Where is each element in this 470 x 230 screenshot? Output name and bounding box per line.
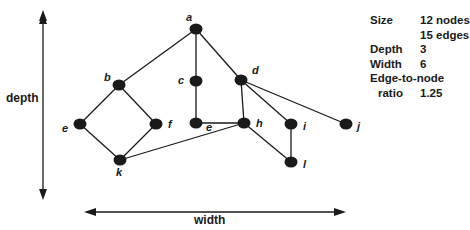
- node-label: l: [303, 158, 307, 170]
- edge-a-d: [196, 29, 241, 80]
- node-c: c: [178, 74, 203, 87]
- node-f: f: [150, 118, 174, 130]
- graph-edges: [80, 29, 346, 162]
- node-label: j: [355, 120, 361, 132]
- node-dot-icon: [285, 157, 298, 168]
- node-dot-icon: [150, 119, 163, 130]
- edge-h-l: [244, 123, 291, 162]
- node-dot-icon: [190, 118, 203, 129]
- depth-axis: depth: [6, 10, 47, 200]
- stat-size-row: Size 12 nodes: [370, 13, 470, 28]
- depth-label: depth: [6, 91, 39, 105]
- stat-size-nodes: 12 nodes: [420, 13, 470, 28]
- node-dot-icon: [114, 155, 127, 166]
- depth-arrow-top-icon: [39, 10, 47, 21]
- edge-a-b: [119, 29, 196, 85]
- node-dot-icon: [113, 80, 126, 91]
- edge-e1-k: [80, 124, 120, 160]
- stat-width-value: 6: [420, 57, 426, 72]
- graph-stats-panel: Size 12 nodes 15 edges Depth 3 Width 6 E…: [370, 13, 470, 100]
- width-axis: width: [84, 208, 346, 227]
- node-h: h: [238, 117, 264, 129]
- stat-ratio-label-row: Edge-to-node: [370, 71, 470, 86]
- edge-d-i: [241, 80, 291, 124]
- node-label: e: [62, 122, 68, 134]
- node-a: a: [186, 11, 203, 35]
- node-label: f: [168, 118, 173, 130]
- edge-d-h: [241, 80, 244, 123]
- node-label: i: [303, 120, 307, 132]
- node-dot-icon: [74, 119, 87, 130]
- stat-size-label: Size: [370, 13, 420, 28]
- stat-edges-row: 15 edges: [370, 28, 470, 43]
- node-l: l: [285, 157, 308, 171]
- edge-b-e1: [80, 85, 119, 124]
- width-label: width: [193, 213, 225, 227]
- node-label: k: [116, 166, 123, 178]
- stat-ratio-row: ratio 1.25: [370, 86, 470, 101]
- node-b: b: [104, 71, 126, 91]
- node-e2: e: [190, 118, 213, 134]
- stat-ratio-label: Edge-to-node: [370, 71, 444, 86]
- node-k: k: [114, 155, 127, 179]
- stat-width-label: Width: [370, 57, 420, 72]
- node-i: i: [285, 119, 308, 133]
- depth-arrow-bottom-icon: [39, 189, 47, 200]
- node-j: j: [340, 119, 362, 133]
- stat-ratio-value: 1.25: [420, 86, 442, 101]
- node-dot-icon: [285, 119, 298, 130]
- stat-depth-value: 3: [420, 42, 426, 57]
- node-label: b: [104, 71, 111, 83]
- node-dot-icon: [190, 24, 203, 35]
- stat-depth-label: Depth: [370, 42, 420, 57]
- width-arrow-right-icon: [334, 208, 346, 216]
- stat-width-row: Width 6: [370, 57, 470, 72]
- node-dot-icon: [235, 75, 248, 86]
- node-dot-icon: [238, 118, 251, 129]
- node-label: c: [178, 74, 184, 86]
- node-dot-icon: [340, 119, 353, 130]
- node-d: d: [235, 64, 260, 86]
- width-arrow-left-icon: [84, 208, 96, 216]
- stat-ratio-label-2: ratio: [370, 86, 420, 101]
- stat-size-edges: 15 edges: [420, 28, 469, 43]
- node-label: e: [206, 121, 212, 133]
- node-dot-icon: [190, 76, 203, 87]
- edge-b-f: [119, 85, 156, 124]
- node-label: d: [252, 64, 259, 76]
- node-label: a: [186, 11, 192, 23]
- graph-nodes: abcdefehijkl: [62, 11, 361, 178]
- node-e1: e: [62, 119, 87, 135]
- stat-depth-row: Depth 3: [370, 42, 470, 57]
- node-label: h: [256, 117, 263, 129]
